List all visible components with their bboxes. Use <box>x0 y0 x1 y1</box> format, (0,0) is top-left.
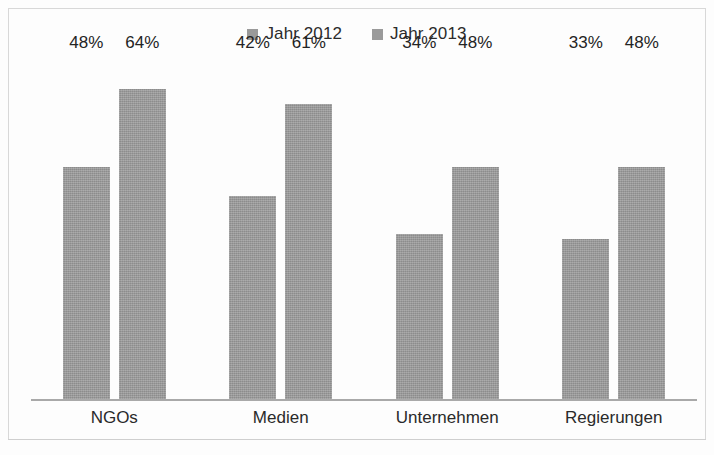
bar-regierungen-2013 <box>618 167 665 400</box>
bar-wrap: 48% <box>63 60 110 399</box>
bar-wrap: 48% <box>452 60 499 399</box>
bar-chart: Jahr 2012 Jahr 2013 48% 64% 42% <box>0 0 714 455</box>
chart-frame-bottom-rule <box>8 439 706 440</box>
bar-unternehmen-2012 <box>396 234 443 399</box>
x-axis-label-unternehmen: Unternehmen <box>364 408 531 428</box>
bar-value-label: 33% <box>569 33 603 53</box>
bar-medien-2013 <box>285 104 332 399</box>
plot-area: 48% 64% 42% 61% <box>9 60 705 401</box>
bar-value-label: 34% <box>402 33 436 53</box>
bar-value-label: 48% <box>625 33 659 53</box>
bar-regierungen-2012 <box>562 239 609 399</box>
bar-group-regierungen: 33% 48% <box>531 60 698 399</box>
x-axis-label-regierungen: Regierungen <box>531 408 698 428</box>
bar-value-label: 48% <box>458 33 492 53</box>
bar-ngos-2013 <box>119 89 166 399</box>
chart-legend: Jahr 2012 Jahr 2013 <box>0 24 714 44</box>
x-axis-label-ngos: NGOs <box>31 408 198 428</box>
bar-medien-2012 <box>229 196 276 399</box>
bar-unternehmen-2013 <box>452 167 499 400</box>
bar-group-unternehmen: 34% 48% <box>364 60 531 399</box>
bar-wrap: 64% <box>119 60 166 399</box>
x-axis-category-labels: NGOs Medien Unternehmen Regierungen <box>31 408 697 428</box>
bar-group-medien: 42% 61% <box>198 60 365 399</box>
bar-wrap: 61% <box>285 60 332 399</box>
bar-ngos-2012 <box>63 167 110 400</box>
bar-value-label: 64% <box>125 33 159 53</box>
bar-wrap: 48% <box>618 60 665 399</box>
bar-wrap: 34% <box>396 60 443 399</box>
bar-value-label: 48% <box>69 33 103 53</box>
bar-wrap: 42% <box>229 60 276 399</box>
bar-wrap: 33% <box>562 60 609 399</box>
bar-group-ngos: 48% 64% <box>31 60 198 399</box>
x-axis-label-medien: Medien <box>198 408 365 428</box>
legend-swatch-icon <box>372 29 383 40</box>
x-axis-line <box>31 399 697 401</box>
bar-value-label: 61% <box>292 33 326 53</box>
bar-groups: 48% 64% 42% 61% <box>31 60 697 399</box>
bar-value-label: 42% <box>236 33 270 53</box>
